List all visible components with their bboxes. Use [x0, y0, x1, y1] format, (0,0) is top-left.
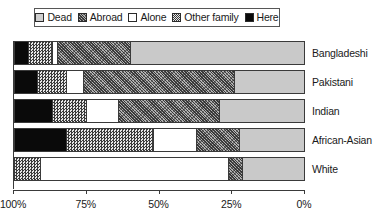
bar-segment-abroad[interactable]	[119, 100, 220, 122]
legend-item-here[interactable]: Here	[245, 12, 279, 23]
category-label-indian: Indian	[312, 105, 339, 117]
bar-segment-abroad[interactable]	[84, 71, 234, 93]
x-axis-tick	[304, 190, 305, 194]
x-axis-tick-label: 25%	[221, 198, 241, 210]
legend-item-other[interactable]: Other family	[172, 12, 238, 23]
bar-row	[14, 70, 305, 94]
bar-row	[14, 41, 305, 65]
x-axis-tick	[86, 190, 87, 194]
bar-segment-dead[interactable]	[220, 100, 304, 122]
category-label-african-asian: African-Asian	[312, 134, 372, 146]
bar-segment-dead[interactable]	[240, 129, 304, 151]
stacked-bar[interactable]	[14, 157, 305, 181]
white-square-icon	[128, 13, 137, 22]
bar-segment-other[interactable]	[15, 158, 41, 180]
legend-item-label: Other family	[184, 12, 238, 23]
bar-segment-other[interactable]	[53, 100, 88, 122]
x-axis-tick	[13, 190, 14, 194]
legend-item-abroad[interactable]: Abroad	[78, 12, 123, 23]
legend-item-alone[interactable]: Alone	[128, 12, 166, 23]
x-axis-tick-label: 50%	[148, 198, 168, 210]
bar-segment-abroad[interactable]	[197, 129, 240, 151]
legend-item-label: Dead	[47, 12, 71, 23]
stacked-bar[interactable]	[14, 128, 305, 152]
bar-segment-dead[interactable]	[235, 71, 304, 93]
bar-segment-other[interactable]	[38, 71, 67, 93]
checkered-square-icon	[172, 13, 181, 22]
bar-segment-abroad[interactable]	[229, 158, 243, 180]
bar-segment-here[interactable]	[15, 71, 38, 93]
x-axis-line	[13, 190, 305, 191]
bar-row	[14, 128, 305, 152]
bar-segment-other[interactable]	[67, 129, 154, 151]
legend-item-label: Alone	[140, 12, 166, 23]
stacked-bar[interactable]	[14, 99, 305, 123]
bar-segment-alone[interactable]	[154, 129, 197, 151]
x-axis-tick-label: 0%	[297, 198, 312, 210]
category-label-bangladeshi: Bangladeshi	[312, 47, 368, 59]
chart-plot-area	[13, 41, 305, 189]
category-label-pakistani: Pakistani	[312, 76, 353, 88]
bar-segment-dead[interactable]	[131, 42, 304, 64]
chart-legend: DeadAbroadAloneOther familyHere	[34, 8, 280, 27]
light-gray-square-icon	[35, 13, 44, 22]
bar-segment-here[interactable]	[15, 42, 29, 64]
bar-segment-here[interactable]	[15, 100, 53, 122]
bar-segment-dead[interactable]	[243, 158, 304, 180]
x-axis-tick	[159, 190, 160, 194]
legend-item-dead[interactable]: Dead	[35, 12, 71, 23]
legend-item-label: Here	[257, 12, 279, 23]
bar-segment-other[interactable]	[29, 42, 52, 64]
bar-row	[14, 99, 305, 123]
bar-segment-here[interactable]	[15, 129, 67, 151]
bar-row	[14, 157, 305, 181]
bar-segment-alone[interactable]	[67, 71, 84, 93]
legend-item-label: Abroad	[90, 12, 123, 23]
black-square-icon	[245, 13, 254, 22]
x-axis-tick-label: 100%	[0, 198, 26, 210]
stacked-bar[interactable]	[14, 70, 305, 94]
x-axis-tick	[231, 190, 232, 194]
category-label-white: White	[312, 163, 338, 175]
bar-segment-alone[interactable]	[87, 100, 119, 122]
dark-hatch-square-icon	[78, 13, 87, 22]
bar-segment-alone[interactable]	[41, 158, 229, 180]
x-axis-tick-label: 75%	[76, 198, 96, 210]
stacked-bar[interactable]	[14, 41, 305, 65]
bar-segment-abroad[interactable]	[58, 42, 130, 64]
